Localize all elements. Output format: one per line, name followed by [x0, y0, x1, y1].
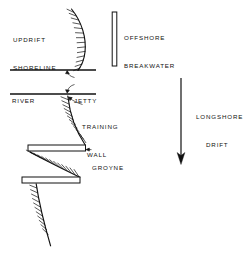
jetty-upper-leader-arrowhead	[66, 71, 70, 74]
label-groyne: GROYNE	[92, 145, 124, 191]
label-offshore-breakwater-line2: BREAKWATER	[124, 61, 175, 70]
groyne-lower-bar	[22, 177, 80, 183]
label-training-wall-line1: TRAINING	[82, 122, 118, 131]
label-offshore-breakwater-line1: OFFSHORE	[124, 33, 175, 42]
longshore-drift-arrow	[177, 78, 185, 165]
label-longshore-drift-line2: DRIFT	[196, 140, 243, 149]
label-groyne-text: GROYNE	[92, 163, 124, 172]
coastal-structures-diagram: UPDRIFT SHORELINE RIVER JETTY TRAINING W…	[0, 0, 245, 259]
downdrift-shoreline-segment-3-group	[30, 184, 51, 246]
label-river: RIVER	[12, 78, 35, 124]
label-offshore-breakwater: OFFSHORE BREAKWATER	[124, 15, 175, 89]
updrift-shoreline-group	[67, 9, 85, 71]
label-longshore-drift: LONGSHORE DRIFT	[196, 94, 243, 168]
offshore-breakwater-bar	[112, 12, 117, 66]
label-updrift-shoreline-line2: SHORELINE	[13, 63, 56, 72]
label-river-text: RIVER	[12, 96, 35, 105]
jetty-lower-leader-arrowhead	[66, 90, 70, 93]
downdrift-shoreline-segment-2-group	[26, 150, 80, 177]
label-updrift-shoreline-line1: UPDRIFT	[13, 35, 56, 44]
training-wall-leader-arrowhead	[68, 97, 72, 101]
groyne-upper-bar	[28, 145, 86, 151]
label-longshore-drift-line1: LONGSHORE	[196, 112, 243, 121]
downdrift-shoreline-curve-3	[36, 184, 50, 246]
